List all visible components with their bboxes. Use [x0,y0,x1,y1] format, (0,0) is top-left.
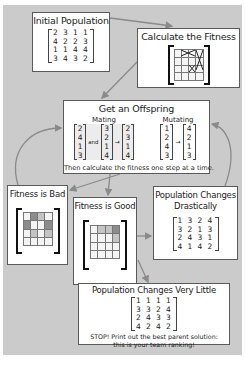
grid-cell [113,234,119,241]
grid-cell [113,251,119,258]
little-footer-line1: STOP! Print out the best parent solution… [79,333,229,341]
grid-cell [98,243,104,250]
grid-cell [98,251,104,258]
after-mutation-vector: 4213 [183,124,196,160]
matrix-cell: 2 [164,323,173,332]
vector-cell: 2 [165,133,170,142]
grid-cell [24,238,30,245]
matrix-cell: 1 [186,243,195,252]
matrix-cell: 4 [176,243,185,252]
fitness-good-title: Fitness is Good [74,201,136,212]
grid-cell [91,251,97,258]
grid-cell [31,230,37,237]
initial-population-box: Initial Population 2311422311443432 [32,12,110,72]
matrix-cell: 4 [61,55,70,64]
vector-cell: 3 [104,124,109,133]
arrow-bad-loop [16,128,61,185]
matrix-cell: 3 [51,55,60,64]
grid-cell [91,226,97,233]
arrow-icon: → [115,138,120,146]
grid-cell [106,226,112,233]
grid-cell [91,243,97,250]
child-vector: 2314 [122,124,134,160]
initial-population-title: Initial Population [33,15,109,26]
parent-a-vector: 2413 [74,124,86,160]
matrix-cell: 4 [196,243,205,252]
grid-cell [31,238,37,245]
arrow-init-to-fitness [110,18,172,26]
vector-cell: 3 [187,151,192,160]
grid-cell [31,221,37,228]
vector-cell: 2 [78,124,83,133]
fitness-bad-box: Fitness is Bad [7,185,68,265]
matrix-cell: 2 [81,55,90,64]
vector-cell: 1 [187,142,192,151]
population-changes-very-little-box: Population Changes Very Little 111133242… [78,283,230,345]
grid-cell [31,213,37,220]
vector-cell: 3 [126,133,131,142]
mating-label: Mating [74,116,134,124]
matrix-cell: 3 [71,55,80,64]
vector-cell: 1 [78,142,83,151]
vector-cell: 4 [104,151,109,160]
grid-cell [113,226,119,233]
drastic-matrix: 1324321324314142 [173,217,219,251]
grid-cell [45,221,51,228]
little-footer-line2: this is your team ranking! [79,341,229,349]
drastic-title-line2: Drastically [154,201,237,212]
grid-cell [24,213,30,220]
and-label: and [88,138,98,146]
vector-cell: 3 [165,151,170,160]
fitness-good-box: Fitness is Good [73,197,137,285]
offspring-footer: Then calculate the fitness one step at a… [64,164,209,172]
matrix-cell: 4 [154,323,163,332]
matrix-cell: 2 [144,323,153,332]
good-fitness-grid-icon [83,220,127,270]
vector-cell: 4 [187,124,192,133]
grid-cell [113,243,119,250]
arrow-offspring-to-bad [70,174,120,190]
calculate-fitness-box: Calculate the Fitness [137,28,240,88]
grid-cell [106,243,112,250]
grid-cell [106,251,112,258]
vector-cell: 4 [165,142,170,151]
calculate-fitness-title: Calculate the Fitness [138,31,239,42]
initial-population-matrix: 2311422311443432 [48,29,94,63]
fitness-bad-title: Fitness is Bad [8,189,67,200]
grid-cell [91,234,97,241]
arrow-icon: → [175,138,180,146]
drastic-title-line1: Population Changes [154,190,237,201]
vector-cell: 1 [165,124,170,133]
matrix-cell: 2 [206,243,215,252]
vector-cell: 4 [126,151,131,160]
vector-cell: 2 [104,133,109,142]
arrow-good-to-little [138,260,148,282]
get-offspring-box: Get an Offspring Mating 2413 and 3214 → … [63,100,210,174]
vector-cell: 1 [126,142,131,151]
grid-cell [106,234,112,241]
matrix-cell: 4 [134,323,143,332]
mating-section: Mating 2413 and 3214 → 2314 [74,116,134,160]
parent-b-vector: 3214 [101,124,113,160]
bad-fitness-grid-icon [16,208,60,254]
arrow-drastic-loop [212,124,231,186]
mutating-section: Mutating 1243 → 4213 [158,116,198,160]
grid-cell [38,230,44,237]
get-offspring-title: Get an Offspring [64,103,209,114]
vector-cell: 4 [78,133,83,142]
vector-cell: 1 [104,142,109,151]
vector-cell: 2 [126,124,131,133]
grid-cell [38,213,44,220]
grid-cell [38,238,44,245]
grid-cell [45,230,51,237]
fitness-grid-with-crosses-icon [168,45,210,85]
grid-cell [98,234,104,241]
grid-cell [38,221,44,228]
grid-cell [24,230,30,237]
before-mutation-vector: 1243 [160,124,173,160]
grid-cell [45,238,51,245]
grid-cell [45,213,51,220]
grid-cell [98,226,104,233]
population-changes-drastically-box: Population Changes Drastically 132432132… [153,186,238,260]
little-matrix: 1111332424334242 [131,297,177,331]
